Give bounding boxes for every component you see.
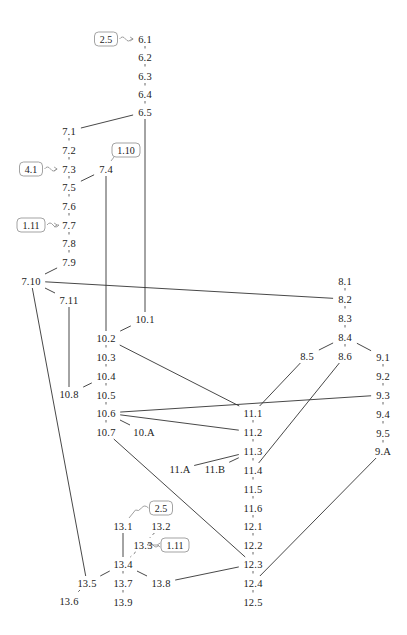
- node-13.5: 13.5: [77, 578, 96, 589]
- node-7.8: 7.8: [62, 238, 76, 249]
- node-label: 7.10: [21, 276, 40, 287]
- node-label: 7.8: [62, 238, 76, 249]
- node-label: 10.8: [59, 389, 78, 400]
- node-9.1: 9.1: [376, 352, 390, 363]
- node-6.4: 6.4: [138, 89, 152, 100]
- node-8.2: 8.2: [338, 294, 352, 305]
- node-label: 7.3: [62, 164, 76, 175]
- node-10.3: 10.3: [96, 352, 115, 363]
- node-label: 10.2: [96, 333, 115, 344]
- node-label: 7.11: [60, 295, 79, 306]
- node-label: 7.7: [62, 220, 76, 231]
- node-label: 11.B: [205, 464, 226, 475]
- node-9.3: 9.3: [376, 390, 390, 401]
- node-label: 7.6: [62, 201, 76, 212]
- node-label: 10.1: [135, 314, 154, 325]
- node-label: 9.2: [376, 371, 390, 382]
- node-label: 8.6: [338, 351, 352, 362]
- node-label: 12.5: [243, 597, 262, 608]
- node-label: 7.5: [62, 182, 76, 193]
- node-13.7: 13.7: [113, 578, 132, 589]
- node-label: 12.2: [243, 540, 262, 551]
- node-8.1: 8.1: [338, 276, 352, 287]
- node-label: 9.3: [376, 390, 390, 401]
- reference-badge-1.10: 1.10: [111, 143, 140, 161]
- node-label: 11.2: [244, 427, 263, 438]
- node-label: 10.5: [96, 390, 115, 401]
- node-label: 10.4: [96, 371, 116, 382]
- reference-badge-2.5: 2.5: [95, 32, 134, 46]
- node-label: 13.9: [113, 597, 132, 608]
- reference-label: 4.1: [25, 164, 38, 175]
- reference-badge-1.11: 1.11: [147, 538, 189, 552]
- node-label: 8.2: [338, 294, 352, 305]
- node-11.5: 11.5: [244, 484, 263, 495]
- node-7.5: 7.5: [62, 182, 76, 193]
- node-label: 13.4: [113, 559, 133, 570]
- node-label: 9.5: [376, 428, 390, 439]
- reference-label: 1.11: [166, 540, 183, 551]
- node-11.A: 11.A: [169, 464, 190, 475]
- node-10.2: 10.2: [96, 333, 115, 344]
- node-label: 6.2: [138, 52, 152, 63]
- node-10.1: 10.1: [135, 314, 154, 325]
- solid-edge-10.2-11.1: [120, 345, 240, 406]
- solid-edge-7.9-7.10: [45, 268, 57, 274]
- node-6.5: 6.5: [138, 107, 152, 118]
- node-label: 13.3: [133, 540, 152, 551]
- reference-label: 1.10: [117, 145, 135, 156]
- node-12.3: 12.3: [243, 559, 262, 570]
- node-label: 6.3: [138, 71, 152, 82]
- reference-label: 2.5: [155, 503, 168, 514]
- edges-layer: [32, 46, 383, 595]
- node-8.3: 8.3: [338, 313, 352, 324]
- node-7.11: 7.11: [60, 295, 79, 306]
- node-6.1: 6.1: [138, 34, 152, 45]
- node-11.2: 11.2: [244, 427, 263, 438]
- node-label: 13.2: [151, 521, 170, 532]
- node-6.3: 6.3: [138, 71, 152, 82]
- node-label: 6.1: [138, 34, 152, 45]
- node-12.2: 12.2: [243, 540, 262, 551]
- node-label: 10.A: [133, 427, 155, 438]
- reference-label: 2.5: [100, 34, 113, 45]
- nodes-layer: 6.16.26.36.46.57.17.27.37.47.57.67.77.87…: [21, 34, 391, 608]
- references-layer: 2.51.104.11.112.51.11: [17, 32, 189, 552]
- node-7.9: 7.9: [62, 257, 76, 268]
- node-13.8: 13.8: [151, 578, 170, 589]
- solid-edge-7.10-13.5: [32, 288, 85, 576]
- node-label: 10.3: [96, 352, 115, 363]
- node-7.7: 7.7: [62, 220, 76, 231]
- solid-edge-10.1-10.2: [120, 326, 131, 331]
- node-7.4: 7.4: [99, 164, 113, 175]
- arrowhead-icon: [54, 167, 57, 171]
- solid-edge-13.8-12.3: [175, 567, 239, 580]
- reference-label: 1.11: [22, 220, 39, 231]
- node-9.A: 9.A: [375, 446, 391, 457]
- node-label: 7.1: [62, 126, 76, 137]
- node-label: 8.4: [338, 332, 352, 343]
- solid-edge-13.4-13.5: [100, 571, 109, 576]
- node-11.1: 11.1: [244, 408, 263, 419]
- node-12.4: 12.4: [243, 578, 263, 589]
- chapter-dependency-diagram: 2.51.104.11.112.51.11 6.16.26.36.46.57.1…: [0, 0, 407, 635]
- solid-edge-13.4-13.8: [137, 571, 147, 576]
- node-label: 11.A: [169, 464, 190, 475]
- node-label: 11.3: [244, 446, 263, 457]
- node-8.4: 8.4: [338, 332, 352, 343]
- node-label: 8.5: [300, 351, 314, 362]
- solid-edge-8.6-11.4: [259, 363, 340, 463]
- node-label: 6.4: [138, 89, 152, 100]
- node-7.2: 7.2: [62, 145, 76, 156]
- node-10.7: 10.7: [96, 427, 115, 438]
- reference-badge-1.11: 1.11: [17, 218, 59, 232]
- solid-edge-10.4-10.8: [83, 383, 92, 387]
- node-label: 13.1: [113, 521, 132, 532]
- node-10.6: 10.6: [96, 408, 115, 419]
- node-10.8: 10.8: [59, 389, 78, 400]
- dashed-edge-13.3-13.4: [130, 552, 135, 557]
- node-11.6: 11.6: [244, 503, 263, 514]
- node-9.5: 9.5: [376, 428, 390, 439]
- reference-badge-2.5: 2.5: [129, 501, 173, 518]
- node-11.3: 11.3: [244, 446, 263, 457]
